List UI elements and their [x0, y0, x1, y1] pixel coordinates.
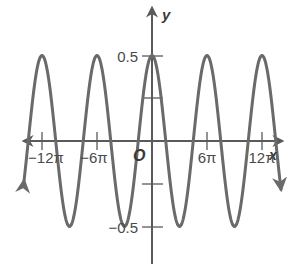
- x-tick-label-neg12pi: −12π: [28, 149, 64, 166]
- x-tick-label-pos12pi: 12π: [248, 149, 275, 166]
- x-tick-label-neg6pi: −6π: [80, 149, 107, 166]
- cosine-graph: y x O 0.5 −0.5 −12π −6π 6π 12π: [0, 0, 288, 266]
- origin-label: O: [133, 147, 146, 164]
- y-tick-label-neg: −0.5: [108, 219, 138, 236]
- x-tick-label-pos6pi: 6π: [198, 149, 217, 166]
- y-tick-label-pos: 0.5: [117, 48, 138, 65]
- y-axis-label: y: [161, 6, 171, 23]
